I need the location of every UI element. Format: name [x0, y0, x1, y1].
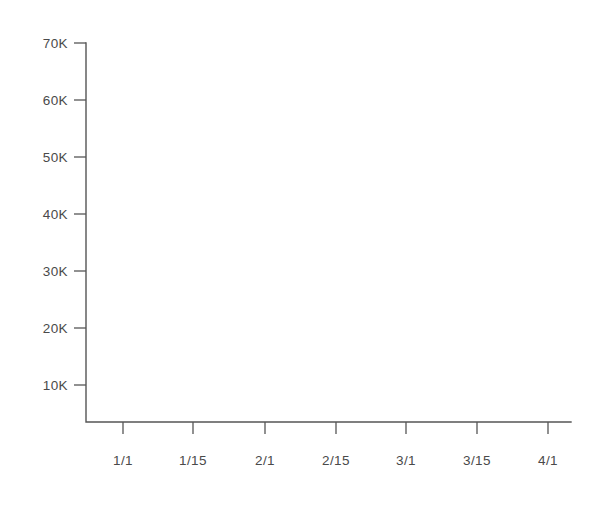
y-tick-label: 70K [43, 36, 68, 51]
x-tick-label: 4/1 [538, 453, 558, 468]
y-tick-label: 40K [43, 207, 68, 222]
x-tick-label: 3/15 [463, 453, 491, 468]
x-tick-label: 3/1 [396, 453, 416, 468]
y-tick-label: 20K [43, 321, 68, 336]
x-tick-label: 1/1 [113, 453, 133, 468]
y-tick-label: 30K [43, 264, 68, 279]
x-tick-label: 1/15 [179, 453, 207, 468]
x-tick-label: 2/15 [322, 453, 350, 468]
y-tick-label: 10K [43, 378, 68, 393]
y-tick-label: 60K [43, 93, 68, 108]
plot-area [86, 43, 571, 422]
chart-container: 70K60K50K40K30K20K10K 1/11/152/12/153/13… [0, 0, 603, 509]
empty-time-series-chart: 70K60K50K40K30K20K10K 1/11/152/12/153/13… [0, 0, 603, 509]
y-tick-label: 50K [43, 150, 68, 165]
x-tick-label: 2/1 [255, 453, 275, 468]
